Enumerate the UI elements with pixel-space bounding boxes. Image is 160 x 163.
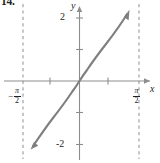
fraction-pi-over-2-left: π 2 bbox=[14, 87, 21, 105]
y-axis-label: y bbox=[71, 1, 75, 11]
y-axis-arrow bbox=[77, 6, 82, 12]
negative-sign: − bbox=[8, 92, 13, 101]
graph-figure: 14. y x 2 -2 − π 2 π 2 bbox=[0, 0, 160, 163]
y-tick-label-2: 2 bbox=[60, 12, 65, 22]
coordinate-plane bbox=[0, 0, 160, 163]
fraction-denominator: 2 bbox=[134, 97, 140, 106]
fraction-pi-over-2-right: π 2 bbox=[133, 87, 140, 105]
fraction-denominator: 2 bbox=[14, 97, 20, 106]
x-tick-label-negative-pi-over-2: − π 2 bbox=[8, 87, 21, 105]
curve-arrow-lower-left bbox=[31, 142, 39, 150]
y-tick-label-negative-2: -2 bbox=[56, 139, 64, 149]
fraction-numerator: π bbox=[14, 87, 20, 96]
fraction-numerator: π bbox=[133, 87, 139, 96]
x-tick-label-pi-over-2: π 2 bbox=[133, 87, 140, 105]
x-axis-label: x bbox=[150, 84, 154, 94]
